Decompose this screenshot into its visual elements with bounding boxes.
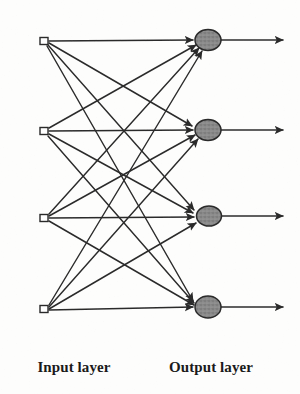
edge-in3-out2	[49, 135, 195, 216]
output-neuron-2[interactable]	[195, 120, 221, 141]
input-node-3[interactable]	[40, 215, 48, 222]
edge-in4-out4	[49, 307, 193, 310]
output-layer-caption: Output layer of neurons	[146, 320, 276, 394]
synapse-edges	[47, 40, 202, 310]
edge-in3-out3	[49, 217, 194, 218]
output-neuron-3[interactable]	[197, 206, 222, 226]
edge-in4-out3	[49, 223, 196, 309]
output-neuron-1[interactable]	[195, 30, 221, 51]
output-neuron-4[interactable]	[195, 296, 221, 318]
edge-in2-out4	[48, 136, 194, 303]
edge-in1-out2	[49, 43, 192, 126]
input-layer-caption: Input layer of source nodes	[14, 320, 134, 394]
edge-in2-out3	[49, 134, 193, 213]
neural-network-figure: Input layer of source nodes Output layer…	[0, 0, 300, 394]
edge-in2-out2	[49, 130, 193, 131]
output-neurons	[195, 30, 222, 319]
input-source-nodes	[40, 38, 48, 313]
edge-in3-out4	[49, 221, 194, 305]
input-caption-line-1: Input layer	[14, 358, 134, 377]
input-node-1[interactable]	[40, 38, 48, 45]
output-caption-line-1: Output layer	[146, 358, 276, 377]
input-node-2[interactable]	[40, 128, 48, 135]
edge-in1-out1	[49, 40, 193, 41]
input-node-4[interactable]	[40, 306, 48, 313]
output-arrows	[220, 40, 283, 307]
